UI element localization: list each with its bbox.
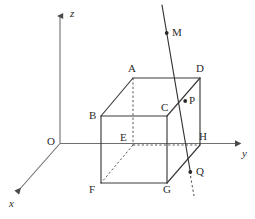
axis-origin-label: O bbox=[47, 136, 55, 147]
point-label-P: P bbox=[189, 95, 195, 106]
axis-group bbox=[19, 16, 238, 190]
vertex-label-F: F bbox=[89, 184, 95, 195]
cube-visible-edges bbox=[101, 78, 200, 183]
vertex-label-B: B bbox=[89, 110, 96, 121]
vertex-label-H: H bbox=[199, 131, 207, 142]
point-M-dot bbox=[165, 31, 169, 35]
vertex-label-E: E bbox=[120, 132, 127, 143]
vertex-label-A: A bbox=[128, 63, 136, 74]
x-axis-label: x bbox=[9, 198, 14, 209]
edge-G-H bbox=[167, 145, 200, 183]
point-label-Q: Q bbox=[196, 166, 204, 177]
line-MPQ-dashed-extension bbox=[191, 176, 195, 196]
edge-A-B bbox=[101, 78, 133, 116]
geometry-canvas bbox=[0, 0, 255, 219]
geometry-figure: O z y x A D B C E H F G M P Q bbox=[0, 0, 255, 219]
point-P-dot bbox=[183, 99, 187, 103]
vertex-label-D: D bbox=[196, 63, 204, 74]
point-label-M: M bbox=[172, 27, 182, 38]
cube-hidden-edges bbox=[101, 78, 200, 183]
z-axis-label: z bbox=[70, 8, 74, 19]
vertex-label-C: C bbox=[161, 102, 168, 113]
edge-E-F bbox=[101, 145, 133, 183]
x-axis bbox=[19, 144, 60, 191]
y-axis-label: y bbox=[242, 148, 247, 159]
vertex-label-G: G bbox=[163, 184, 171, 195]
point-Q-dot bbox=[188, 170, 192, 174]
